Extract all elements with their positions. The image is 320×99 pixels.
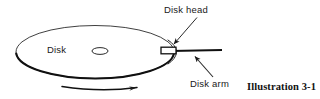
disk-arm-label: Disk arm <box>190 78 229 89</box>
disk-label: Disk <box>47 44 66 55</box>
actuator-arm <box>171 50 222 51</box>
disk-head-leader-line <box>174 18 197 45</box>
disk-head-label: Disk head <box>164 4 208 15</box>
spindle-hole <box>92 48 108 55</box>
illustration-caption: Illustration 3-1 <box>247 81 316 93</box>
read-write-head <box>161 47 176 54</box>
disk-arm-leader-line <box>195 57 213 78</box>
illustration-figure: Disk head Disk Disk arm Illustration 3-1 <box>0 0 320 99</box>
rotation-direction-arrow <box>62 87 137 90</box>
